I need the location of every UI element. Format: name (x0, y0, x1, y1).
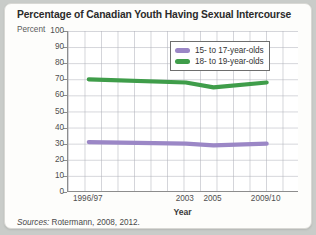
y-tick-80: 80 (55, 59, 64, 67)
y-tick-90: 90 (55, 43, 64, 51)
legend-swatch-18-19 (175, 59, 190, 64)
page-title: Percentage of Canadian Youth Having Sexu… (17, 9, 291, 20)
chart-card: Percentage of Canadian Youth Having Sexu… (4, 3, 312, 229)
line-15-to-17-year-olds (89, 142, 267, 145)
line-18-to-19-year-olds (89, 79, 267, 87)
y-axis-tick-labels: 1009080706050403020100 (35, 31, 64, 192)
x-tick-2005: 2005 (203, 194, 221, 203)
legend-swatch-15-17 (175, 48, 190, 53)
legend-item-15-17: 15- to 17-year-olds (175, 45, 264, 56)
y-tick-40: 40 (55, 124, 64, 132)
x-axis-title: Year (67, 207, 298, 217)
legend-item-18-19: 18- to 19-year-olds (175, 56, 264, 67)
y-tick-30: 30 (55, 140, 64, 148)
y-tick-60: 60 (55, 91, 64, 99)
y-tick-70: 70 (55, 75, 64, 83)
y-tick-50: 50 (55, 108, 64, 116)
y-tick-20: 20 (55, 156, 64, 164)
legend-label-15-17: 15- to 17-year-olds (195, 46, 264, 55)
x-tick-2009-10: 2009/10 (251, 194, 281, 203)
sources-note: Sources: Rotermann, 2008, 2012. (17, 218, 140, 227)
legend-label-18-19: 18- to 19-year-olds (195, 57, 264, 66)
x-axis-tick-labels: 1996/97200320052009/10 (5, 194, 312, 208)
chart-legend: 15- to 17-year-olds 18- to 19-year-olds (170, 41, 270, 71)
sources-body: Rotermann, 2008, 2012. (52, 218, 140, 227)
x-tick-1996-97: 1996/97 (73, 194, 103, 203)
x-tick-2003: 2003 (176, 194, 194, 203)
y-tick-100: 100 (50, 27, 64, 35)
y-tick-10: 10 (55, 172, 64, 180)
sources-prefix: Sources: (17, 218, 49, 227)
